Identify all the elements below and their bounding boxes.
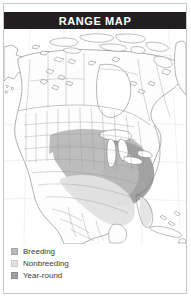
- legend-item-breeding: Breeding: [11, 246, 131, 257]
- legend-item-year-round: Year-round: [11, 270, 131, 281]
- map-legend: Breeding Nonbreeding Year-round: [11, 246, 131, 282]
- aleutian-islands: [5, 85, 14, 94]
- range-map-title-bar: RANGE MAP: [4, 12, 186, 29]
- breeding-swatch: [11, 248, 18, 255]
- greenland-landmass: [175, 41, 187, 95]
- range-map-figure: RANGE MAP: [3, 3, 187, 294]
- legend-label-nonbreeding: Nonbreeding: [23, 259, 69, 269]
- page-title: RANGE MAP: [59, 15, 132, 27]
- legend-label-breeding: Breeding: [23, 247, 55, 257]
- yucatan-detail: [109, 224, 127, 243]
- hispaniola-island: [178, 239, 186, 243]
- legend-item-nonbreeding: Nonbreeding: [11, 258, 131, 269]
- nonbreeding-swatch: [11, 260, 18, 267]
- nonbreeding-range-florida: [140, 197, 152, 226]
- map-container: [4, 29, 186, 244]
- cuba-island: [150, 226, 182, 237]
- legend-label-year-round: Year-round: [23, 271, 62, 281]
- north-america-range-map: [4, 29, 186, 244]
- year-round-swatch: [11, 272, 18, 279]
- bahamas-islands: [160, 211, 180, 226]
